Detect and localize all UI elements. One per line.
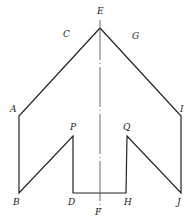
label-F: F [94, 207, 102, 217]
label-B: B [12, 197, 20, 207]
label-J: J [175, 197, 182, 207]
label-Q: Q [123, 122, 131, 132]
label-A: A [9, 104, 17, 114]
label-P: P [69, 122, 77, 132]
label-D: D [67, 197, 75, 207]
label-E: E [96, 6, 104, 16]
label-C: C [63, 29, 70, 39]
label-G: G [132, 31, 139, 41]
label-I: I [179, 104, 184, 114]
figure-canvas: E C G A I P Q B D H J F [0, 0, 190, 217]
label-H: H [123, 197, 132, 207]
